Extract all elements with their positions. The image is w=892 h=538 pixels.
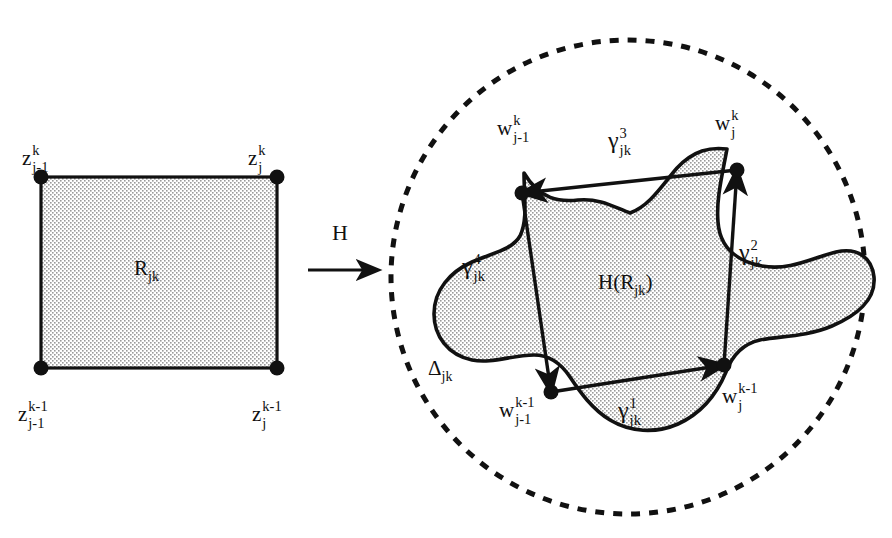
label-gamma-4: γ4jk [462,254,473,278]
label-corner-top-right: zkj [248,148,257,169]
vertex-dot-top-left [515,186,530,201]
label-gamma-1: γ1jk [618,398,629,422]
vertex-dot-top-right [730,163,745,178]
label-corner-top-left: zkj-1 [22,148,31,169]
label-map-h: H [332,222,348,244]
label-gamma-3: γ3jk [608,128,619,152]
label-rectangle-region: Rjk [134,258,159,282]
label-disk: Δjk [428,358,453,382]
label-gamma-2: γ2jk [739,240,750,264]
corner-dot-bottom-right [270,361,285,376]
label-vertex-top-right: wkj [715,113,730,134]
label-vertex-bottom-right: wk-1j [722,386,737,407]
label-corner-bottom-left: zk-1j-1 [18,404,27,425]
label-vertex-bottom-left: wk-1j-1 [499,400,514,421]
label-corner-bottom-right: zk-1j [252,404,261,425]
corner-dot-top-right [270,170,285,185]
image-region-blob [434,148,874,430]
label-vertex-top-left: wkj-1 [497,118,512,139]
corner-dot-bottom-left [34,361,49,376]
vertex-dot-bottom-left [544,385,559,400]
vertex-dot-bottom-right [717,358,732,373]
label-image-region: H(Rjk) [598,272,652,296]
